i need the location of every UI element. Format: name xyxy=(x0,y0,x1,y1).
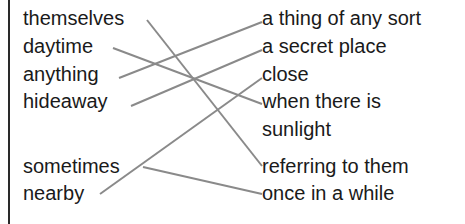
line-sometimes xyxy=(143,167,262,194)
term-anything: anything xyxy=(23,62,99,86)
definition-close: close xyxy=(262,62,309,86)
term-nearby: nearby xyxy=(23,181,84,205)
term-themselves: themselves xyxy=(23,6,124,30)
term-sometimes: sometimes xyxy=(23,154,120,178)
line-themselves xyxy=(147,20,262,166)
definition-when: when there is xyxy=(262,89,381,113)
definition-thing: a thing of any sort xyxy=(262,6,421,30)
definition-once: once in a while xyxy=(262,181,394,205)
definition-referring: referring to them xyxy=(262,154,409,178)
term-daytime: daytime xyxy=(23,34,93,58)
term-hideaway: hideaway xyxy=(23,89,108,113)
definition-secret: a secret place xyxy=(262,34,387,58)
line-daytime xyxy=(113,48,262,104)
line-anything xyxy=(119,22,262,78)
definition-sunlight: sunlight xyxy=(262,117,331,141)
